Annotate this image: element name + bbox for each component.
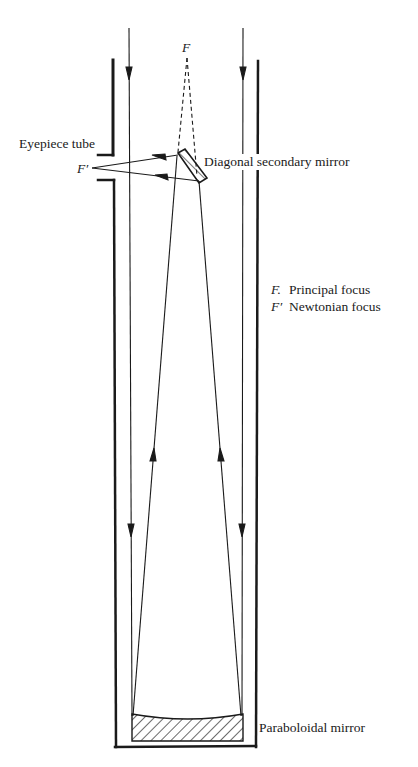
legend-symbol: F. <box>271 283 289 297</box>
primary-mirror <box>132 714 243 741</box>
arrow-down-icon <box>128 524 134 537</box>
principal-focus-label: F <box>181 40 191 56</box>
arrow-down-icon <box>239 524 245 537</box>
arrow-down-icon <box>240 67 246 80</box>
primary-mirror-label: Paraboloidal mirror <box>258 720 366 736</box>
arrow-up-icon <box>218 448 224 461</box>
secondary-mirror-label: Diagonal secondary mirror <box>203 154 350 170</box>
telescope-diagram <box>0 0 418 767</box>
eyepiece-tube-label: Eyepiece tube <box>18 136 96 152</box>
arrow-left-icon <box>155 174 168 180</box>
newtonian-focus-label: F′ <box>76 161 89 177</box>
arrow-up-icon <box>150 448 156 461</box>
incoming-rays <box>126 28 246 716</box>
legend-description: Principal focus <box>289 282 370 297</box>
legend-symbol: F′ <box>271 300 289 314</box>
legend-newtonian-focus: F′Newtonian focus <box>271 300 381 314</box>
tube-left-wall-lower <box>114 180 116 747</box>
tube-bottom <box>115 746 256 747</box>
arrow-down-icon <box>126 67 132 80</box>
legend-description: Newtonian focus <box>289 299 381 314</box>
legend-principal-focus: F.Principal focus <box>271 283 370 297</box>
reflected-rays <box>133 156 241 716</box>
